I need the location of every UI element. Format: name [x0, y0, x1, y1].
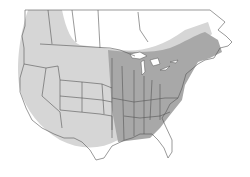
range-map — [0, 0, 250, 177]
map-svg — [0, 0, 250, 177]
